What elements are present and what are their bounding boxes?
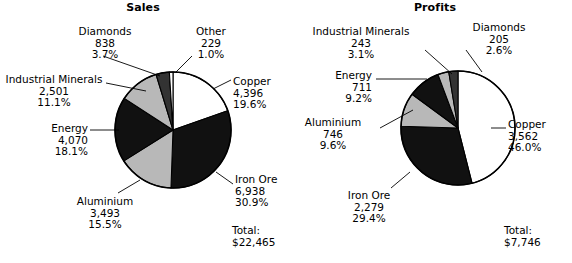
label-name: Aluminium — [289, 117, 377, 129]
label-percent: 29.4% — [329, 213, 409, 225]
label-name: Copper — [508, 119, 570, 131]
label-name: Industrial Minerals — [296, 26, 426, 38]
label-sales-copper: Copper 4,396 19.6% — [233, 76, 293, 111]
label-percent: 3.7% — [60, 49, 150, 61]
label-percent: 15.5% — [62, 219, 148, 231]
label-profits-diamonds: Diamonds 205 2.6% — [458, 22, 540, 57]
label-percent: 1.0% — [181, 49, 241, 61]
label-name: Iron Ore — [329, 190, 409, 202]
label-percent: 9.6% — [289, 140, 377, 152]
label-name: Diamonds — [458, 22, 540, 34]
label-percent: 46.0% — [508, 142, 570, 154]
label-percent: 18.1% — [10, 146, 88, 158]
label-profits-copper: Copper 3,562 46.0% — [508, 119, 570, 154]
label-profits-aluminium: Aluminium 746 9.6% — [289, 117, 377, 152]
label-percent: 2.6% — [458, 45, 540, 57]
total-value: $7,746 — [504, 236, 541, 248]
total-label: Total: — [504, 224, 541, 236]
profits-chart-panel: Profits Industrial Minerals 243 3.1% Dia… — [286, 0, 572, 263]
label-name: Aluminium — [62, 196, 148, 208]
label-profits-energy: Energy 711 9.2% — [298, 70, 372, 105]
sales-chart-panel: Sales Diamonds 838 3.7% Other 229 1.0% I… — [0, 0, 286, 263]
label-name: Energy — [298, 70, 372, 82]
leader-line-aluminium — [118, 180, 140, 193]
label-sales-aluminium: Aluminium 3,493 15.5% — [62, 196, 148, 231]
leader-line-ironore — [391, 172, 410, 188]
label-name: Industrial Minerals — [2, 74, 106, 86]
label-name: Copper — [233, 76, 293, 88]
sales-total: Total: $22,465 — [232, 224, 275, 248]
total-label: Total: — [232, 224, 275, 236]
profits-total: Total: $7,746 — [504, 224, 541, 248]
label-sales-other: Other 229 1.0% — [181, 26, 241, 61]
label-percent: 11.1% — [2, 97, 106, 109]
label-sales-energy: Energy 4,070 18.1% — [10, 123, 88, 158]
label-percent: 3.1% — [296, 49, 426, 61]
label-sales-industrial-minerals: Industrial Minerals 2,501 11.1% — [2, 74, 106, 109]
label-name: Diamonds — [60, 26, 150, 38]
leader-line-industrial — [425, 50, 452, 74]
total-value: $22,465 — [232, 236, 275, 248]
label-profits-industrial-minerals: Industrial Minerals 243 3.1% — [296, 26, 426, 61]
label-sales-diamonds: Diamonds 838 3.7% — [60, 26, 150, 61]
leader-line-copper — [213, 80, 231, 89]
label-percent: 9.2% — [298, 93, 372, 105]
label-percent: 19.6% — [233, 99, 293, 111]
leader-line-ironore — [216, 172, 233, 184]
label-profits-iron-ore: Iron Ore 2,279 29.4% — [329, 190, 409, 225]
label-name: Energy — [10, 123, 88, 135]
label-name: Other — [181, 26, 241, 38]
